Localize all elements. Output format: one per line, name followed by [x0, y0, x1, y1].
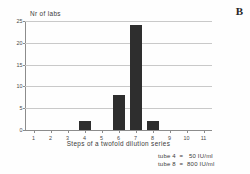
x-tick-mark — [85, 131, 86, 133]
y-axis-line — [25, 21, 26, 131]
y-tick-mark — [23, 43, 25, 44]
bar — [130, 25, 142, 130]
annotation-block: tube 4 = 50 IU/mltube 8 = 800 IU/ml — [158, 152, 215, 169]
bar — [147, 121, 159, 130]
y-tick-label: 25 — [17, 18, 23, 24]
x-tick-mark — [136, 131, 137, 133]
y-tick-mark — [23, 130, 25, 131]
y-tick-mark — [23, 108, 25, 109]
x-tick-mark — [187, 131, 188, 133]
panel-letter: B — [236, 5, 243, 17]
x-tick-mark — [153, 131, 154, 133]
gridline — [25, 65, 212, 66]
y-axis-title: Nr of labs — [30, 10, 61, 17]
y-tick-mark — [23, 21, 25, 22]
x-tick-mark — [51, 131, 52, 133]
figure-panel-b: B Nr of labs 0510152025 1234567891011 St… — [0, 0, 250, 174]
bar — [113, 95, 125, 130]
plot-area: 0510152025 1234567891011 — [25, 21, 212, 131]
x-tick-mark — [34, 131, 35, 133]
x-tick-mark — [119, 131, 120, 133]
y-tick-mark — [23, 65, 25, 66]
y-tick-mark — [23, 86, 25, 87]
y-tick-label: 5 — [20, 105, 23, 111]
y-tick-label: 0 — [20, 127, 23, 133]
gridline — [25, 86, 212, 87]
y-tick-label: 20 — [17, 40, 23, 46]
annotation-line: tube 4 = 50 IU/ml — [158, 152, 215, 160]
gridline — [25, 43, 212, 44]
y-tick-label: 15 — [17, 62, 23, 68]
y-tick-label: 10 — [17, 83, 23, 89]
bar — [79, 121, 91, 130]
x-tick-mark — [68, 131, 69, 133]
x-axis-title: Steps of a twofold dilution series — [25, 140, 212, 147]
annotation-line: tube 8 = 800 IU/ml — [158, 160, 215, 168]
x-tick-mark — [170, 131, 171, 133]
x-tick-mark — [204, 131, 205, 133]
gridline — [25, 21, 212, 22]
x-tick-mark — [102, 131, 103, 133]
